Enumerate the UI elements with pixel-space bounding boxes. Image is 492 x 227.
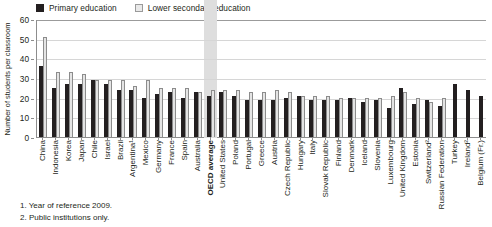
bar-group <box>153 20 166 137</box>
bar-lower-secondary-education <box>185 88 189 137</box>
bar-lower-secondary-education <box>146 80 150 137</box>
bar-group <box>397 20 410 137</box>
bar-group <box>333 20 346 137</box>
bar-group <box>217 20 230 137</box>
y-tick-mark-10 <box>31 118 34 119</box>
bar-group <box>63 20 76 137</box>
bar-primary-education <box>453 84 457 137</box>
bar-group <box>243 20 256 137</box>
chart-legend: Primary education Lower secondary educat… <box>36 1 268 15</box>
y-tick-mark-60 <box>31 20 34 21</box>
y-tick-mark-20 <box>31 99 34 100</box>
bar-lower-secondary-education <box>403 92 407 137</box>
bar-group <box>127 20 140 137</box>
bar-lower-secondary-education <box>172 88 176 137</box>
y-tick-mark-30 <box>31 79 34 80</box>
footnote-2: 2. Public institutions only. <box>20 212 112 224</box>
legend-label-primary: Primary education <box>49 3 117 13</box>
bar-group <box>140 20 153 137</box>
bar-group <box>423 20 436 137</box>
bar-lower-secondary-education <box>223 90 227 137</box>
bar-group <box>178 20 191 137</box>
bar-primary-education <box>479 96 483 137</box>
bar-lower-secondary-education <box>69 72 73 137</box>
y-tick-label-50: 50 <box>20 36 29 44</box>
lower-secondary-swatch-icon <box>135 4 143 12</box>
bar-group <box>166 20 179 137</box>
bar-group <box>76 20 89 137</box>
bar-lower-secondary-education <box>275 90 279 137</box>
bar-group <box>384 20 397 137</box>
bar-group <box>191 20 204 137</box>
y-tick-mark-0 <box>31 138 34 139</box>
bar-lower-secondary-education <box>82 74 86 137</box>
bar-lower-secondary-education <box>198 92 202 137</box>
plot-area <box>36 20 486 138</box>
bar-lower-secondary-education <box>159 88 163 137</box>
y-tick-mark-50 <box>31 40 34 41</box>
chart-footnotes: 1. Year of reference 2009. 2. Public ins… <box>20 200 112 223</box>
bar-lower-secondary-education <box>43 37 47 137</box>
bar-group <box>410 20 423 137</box>
bar-lower-secondary-education <box>249 92 253 137</box>
bar-lower-secondary-education <box>442 98 446 137</box>
bar-group <box>204 20 217 137</box>
legend-item-lower-secondary-education: Lower secondary education <box>135 3 251 13</box>
bar-group <box>101 20 114 137</box>
bar-lower-secondary-education <box>339 98 343 137</box>
bar-lower-secondary-education <box>391 96 395 137</box>
bar-group <box>371 20 384 137</box>
bar-group <box>436 20 449 137</box>
bar-group <box>294 20 307 137</box>
primary-swatch-icon <box>36 4 44 12</box>
bar-lower-secondary-education <box>301 96 305 137</box>
legend-item-primary-education: Primary education <box>36 3 117 13</box>
bar-lower-secondary-education <box>416 98 420 137</box>
x-axis-labels: ChinaIndonesiaKoreaJapanChileIsraelBrazi… <box>36 140 486 202</box>
bar-primary-education <box>466 90 470 137</box>
bar-group <box>307 20 320 137</box>
bar-lower-secondary-education <box>211 90 215 137</box>
bar-group <box>114 20 127 137</box>
y-tick-label-0: 0 <box>24 134 29 142</box>
bar-lower-secondary-education <box>133 86 137 137</box>
bar-group <box>88 20 101 137</box>
y-tick-label-60: 60 <box>20 16 29 24</box>
bar-lower-secondary-education <box>121 80 125 137</box>
bar-lower-secondary-education <box>288 92 292 137</box>
bar-group <box>358 20 371 137</box>
bar-lower-secondary-education <box>352 98 356 137</box>
bar-group <box>230 20 243 137</box>
bar-group <box>281 20 294 137</box>
bar-group <box>346 20 359 137</box>
y-tick-label-30: 30 <box>20 75 29 83</box>
bar-lower-secondary-education <box>365 98 369 137</box>
y-tick-label-20: 20 <box>20 95 29 103</box>
bar-lower-secondary-education <box>95 80 99 137</box>
bar-group <box>461 20 474 137</box>
bar-lower-secondary-education <box>56 72 60 137</box>
footnote-1: 1. Year of reference 2009. <box>20 200 112 212</box>
bar-group <box>320 20 333 137</box>
bar-group <box>50 20 63 137</box>
y-tick-mark-40 <box>31 59 34 60</box>
bar-group <box>268 20 281 137</box>
y-tick-label-40: 40 <box>20 55 29 63</box>
bar-group <box>474 20 487 137</box>
bar-lower-secondary-education <box>108 80 112 137</box>
bar-group <box>448 20 461 137</box>
legend-label-lower-secondary: Lower secondary education <box>148 3 251 13</box>
bar-lower-secondary-education <box>236 90 240 137</box>
y-tick-label-10: 10 <box>20 114 29 122</box>
bar-group <box>256 20 269 137</box>
y-axis-ticks: 0102030405060 <box>0 20 34 138</box>
bar-lower-secondary-education <box>429 102 433 137</box>
chart-container: Primary education Lower secondary educat… <box>0 0 492 227</box>
bar-lower-secondary-education <box>378 98 382 137</box>
bar-lower-secondary-education <box>313 96 317 137</box>
bar-lower-secondary-education <box>326 96 330 137</box>
bar-group <box>37 20 50 137</box>
bar-lower-secondary-education <box>262 92 266 137</box>
x-axis-label-belgium-fr: Belgium (Fr.) <box>475 140 492 152</box>
